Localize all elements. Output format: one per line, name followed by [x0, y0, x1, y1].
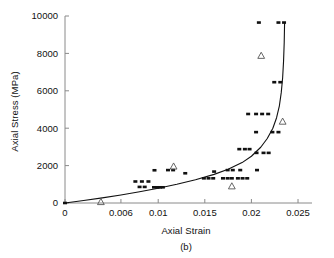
fitted-curve-layer: [65, 23, 285, 203]
figure-caption: (b): [64, 241, 308, 252]
data-point-square: [140, 180, 144, 183]
data-point-square: [276, 21, 280, 24]
data-point-square: [202, 177, 206, 180]
data-point-square: [138, 186, 142, 189]
data-point-square: [248, 148, 252, 151]
y-tick-label: 10000: [32, 10, 58, 21]
data-point-square: [272, 81, 276, 84]
data-point-triangle: [228, 183, 235, 189]
data-point-square: [230, 177, 234, 180]
data-point-square: [236, 177, 240, 180]
y-tick-label: 6000: [37, 85, 58, 96]
x-tick-label: 0.02: [242, 207, 261, 218]
data-point-square: [254, 113, 258, 116]
data-point-square: [231, 169, 235, 172]
data-point-square: [183, 172, 187, 175]
data-point-square: [255, 169, 259, 172]
data-point-square: [238, 169, 242, 172]
data-point-triangle: [279, 118, 286, 124]
y-tick-label: 0: [53, 197, 58, 208]
data-point-square: [146, 180, 150, 183]
axes-layer: [65, 16, 312, 203]
data-point-square: [133, 180, 137, 183]
y-axis-title: Axial Stress (MPa): [9, 49, 20, 175]
x-tick-label: 0.006: [109, 207, 133, 218]
fitted-curve-path: [65, 23, 285, 203]
scatter-plot: 00.0060.010.0150.020.0250200040006000800…: [0, 0, 334, 258]
data-point-square: [166, 169, 170, 172]
x-tick-label: 0.025: [286, 207, 310, 218]
data-point-square: [276, 131, 280, 134]
data-point-square: [63, 202, 67, 205]
data-point-square: [221, 177, 225, 180]
figure-panel-b: 00.0060.010.0150.020.0250200040006000800…: [0, 0, 334, 258]
data-point-square: [260, 113, 264, 116]
data-point-square: [143, 186, 147, 189]
data-point-square: [257, 21, 261, 24]
data-point-square: [241, 177, 245, 180]
data-point-square: [267, 152, 271, 155]
y-tick-label: 4000: [37, 123, 58, 134]
data-point-square: [226, 177, 230, 180]
data-point-square: [152, 169, 156, 172]
data-point-square: [211, 177, 215, 180]
y-tick-label: 2000: [37, 160, 58, 171]
data-point-square: [254, 131, 258, 134]
data-point-triangle: [170, 163, 177, 169]
x-tick-label: 0: [62, 207, 67, 218]
data-point-square: [282, 21, 286, 24]
data-point-square: [262, 152, 266, 155]
y-tick-label: 8000: [37, 48, 58, 59]
data-point-square: [278, 81, 282, 84]
data-point-square: [212, 170, 216, 173]
data-point-triangle: [97, 198, 104, 204]
data-point-square: [226, 169, 230, 172]
x-tick-label: 0.01: [149, 207, 168, 218]
data-point-square: [243, 148, 247, 151]
data-points-layer: [63, 21, 286, 204]
data-point-square: [255, 152, 259, 155]
data-point-square: [161, 186, 165, 189]
x-axis-title: Axial Strain: [64, 225, 308, 236]
data-point-square: [237, 148, 241, 151]
data-point-square: [245, 177, 249, 180]
data-point-square: [207, 177, 211, 180]
data-point-square: [246, 113, 250, 116]
data-point-square: [266, 113, 270, 116]
x-tick-label: 0.015: [193, 207, 217, 218]
data-point-square: [270, 131, 274, 134]
data-point-triangle: [258, 52, 265, 58]
